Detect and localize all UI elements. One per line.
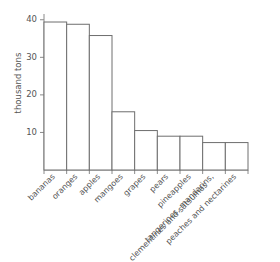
bar-chart: 10203040 thousand tons bananasorangesapp… [0,0,280,262]
chart-canvas: 10203040 thousand tons bananasorangesapp… [0,0,280,262]
x-axis-tick-labels: bananasorangesapplesmangoesgrapespearspi… [26,172,238,262]
bar-apples [89,36,112,170]
bar-oranges [67,24,90,170]
bar-pears [157,136,180,170]
y-axis: 10203040 [26,14,44,170]
y-tick-label: 40 [26,14,37,24]
y-axis-title: thousand tons [13,52,23,113]
bar-grapes [135,131,158,170]
bar-mangoes [112,112,135,170]
bar-tangerines-mandarins-clementines-and-satsumas [203,143,226,170]
y-tick-label: 30 [26,52,37,62]
bar-pineapples [180,136,203,170]
y-tick-label: 10 [26,127,37,137]
y-tick-label: 20 [26,89,37,99]
y-axis-label: thousand tons [13,52,23,113]
x-tick-label: grapes [122,172,148,198]
bar-bananas [44,22,67,170]
x-axis [44,170,248,174]
bar-series [44,22,248,170]
bar-peaches-and-nectarines [225,143,248,170]
